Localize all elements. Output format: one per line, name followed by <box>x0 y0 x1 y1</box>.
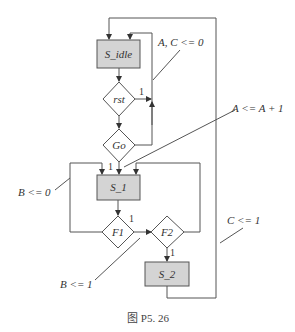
annotation-b-reset: B <= 0 <box>18 186 51 198</box>
leader-c-set <box>220 228 243 243</box>
decision-rst-label: rst <box>113 93 126 105</box>
annotation-b-set: B <= 1 <box>60 278 93 290</box>
decision-f2-label: F2 <box>160 226 174 238</box>
state-s-1-label: S_1 <box>110 181 127 193</box>
decision-go-label: Go <box>112 139 126 151</box>
asmd-chart: S_idle S_1 S_2 rst 1 Go 1 F1 1 F2 1 A, C… <box>0 0 295 332</box>
annotation-a-increment: A <= A + 1 <box>231 102 284 114</box>
f2-true-label: 1 <box>170 247 175 258</box>
state-s-idle: S_idle <box>97 40 140 68</box>
leader-b-reset <box>55 178 70 190</box>
decision-f1: F1 1 <box>102 213 134 248</box>
annotation-a-c-reset: A, C <= 0 <box>157 36 204 48</box>
rst-true-label: 1 <box>139 86 144 97</box>
state-s-2: S_2 <box>145 262 189 286</box>
state-s-2-label: S_2 <box>159 268 176 280</box>
state-s-1: S_1 <box>97 175 140 200</box>
leader-a-increment <box>124 110 235 167</box>
f1-true-label: 1 <box>129 213 134 224</box>
state-s-idle-label: S_idle <box>105 48 133 60</box>
figure-caption: 图 P5. 26 <box>127 312 169 324</box>
go-true-label: 1 <box>108 161 113 172</box>
leader-a-c-reset <box>153 50 180 80</box>
annotation-c-set: C <= 1 <box>227 214 260 226</box>
decision-f1-label: F1 <box>111 226 124 238</box>
